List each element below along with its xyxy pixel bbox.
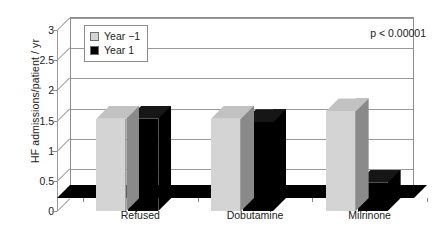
pvalue-annotation: p < 0.00001 [370,27,426,39]
bar-milrinone-year-minus-1 [326,98,369,211]
bar-side-face [126,106,139,211]
bar-dobutamine-year-minus-1 [211,106,254,211]
bar-side-face [356,98,369,211]
bar-side-face [241,106,254,211]
legend-item-year-1: Year 1 [90,43,140,57]
legend-swatch-year-1 [90,46,99,55]
legend-label-year-minus-1: Year −1 [104,30,140,42]
legend-item-year-minus-1: Year −1 [90,29,140,43]
bar-front-face [96,119,126,211]
legend: Year −1 Year 1 [84,25,148,62]
bar-side-face [273,109,286,211]
bar-side-face [158,106,171,211]
x-tick-mark [312,198,313,202]
bar-front-face [211,119,241,211]
legend-swatch-year-minus-1 [90,32,99,41]
x-category-label: Refused [121,209,160,221]
bar-refused-year-minus-1 [96,106,139,211]
x-tick-mark [427,198,428,202]
chart-figure: HF admissions/patient / yr 00.511.522.53… [0,0,440,244]
legend-label-year-1: Year 1 [104,44,134,56]
x-axis-category-labels: RefusedDobutamineMilrinone [0,209,440,229]
x-category-label: Milrinone [348,209,391,221]
x-tick-mark [83,198,84,202]
x-category-label: Dobutamine [227,209,284,221]
bar-front-face [326,111,356,211]
x-tick-mark [198,198,199,202]
